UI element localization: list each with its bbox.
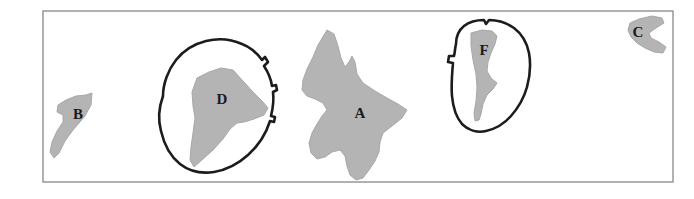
figure-container: B D A F C	[0, 0, 694, 199]
map-figure: B D A F C	[0, 0, 694, 199]
